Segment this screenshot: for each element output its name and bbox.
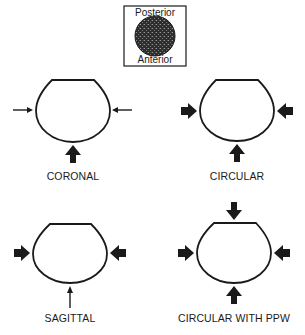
left-arrow-thick-icon xyxy=(14,245,30,261)
panel-circular-with-ppw xyxy=(178,202,290,304)
right-arrow-thick-icon xyxy=(274,245,290,261)
legend-top-label: Posterior xyxy=(135,7,175,18)
panel-sagittal xyxy=(14,224,126,308)
right-arrow-thick-icon xyxy=(110,245,126,261)
bottom-arrow-thick-icon xyxy=(229,144,245,162)
legend-bottom-label: Anterior xyxy=(137,54,172,65)
panel-label-coronal: CORONAL xyxy=(47,170,100,182)
right-arrow-thin-icon xyxy=(112,107,132,113)
panel-circular xyxy=(181,80,293,162)
bottom-arrow-thick-icon xyxy=(65,145,81,163)
top-arrow-thick-icon xyxy=(226,202,242,220)
velopharyngeal-outline xyxy=(200,80,274,141)
left-arrow-thin-icon xyxy=(13,107,33,113)
left-arrow-thick-icon xyxy=(181,103,197,119)
velopharyngeal-outline xyxy=(36,80,110,142)
diagram-canvas xyxy=(0,0,305,335)
panel-label-circular: CIRCULAR xyxy=(210,170,264,182)
panel-label-sagittal: SAGITTAL xyxy=(45,312,96,324)
pharynx-cross-section-icon xyxy=(135,16,175,56)
panel-label-circular-with-ppw: CIRCULAR WITH PPW xyxy=(178,312,290,324)
bottom-arrow-thin-icon xyxy=(67,286,73,308)
panel-coronal xyxy=(13,80,132,163)
left-arrow-thick-icon xyxy=(178,245,194,261)
velopharyngeal-outline xyxy=(33,224,107,283)
bottom-arrow-thick-icon xyxy=(226,286,242,304)
velopharyngeal-outline xyxy=(197,223,271,283)
right-arrow-thick-icon xyxy=(277,103,293,119)
